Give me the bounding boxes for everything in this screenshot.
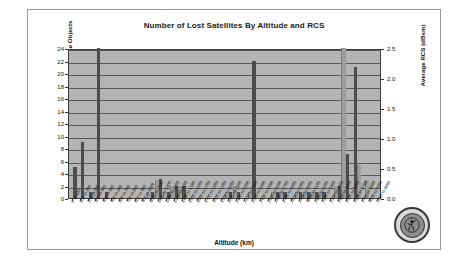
- x-axis-label-cell: 500 to 600: [107, 200, 115, 242]
- bar-group: [85, 50, 93, 198]
- x-axis-label-cell: 2400 to 2500: [256, 200, 264, 242]
- x-axis-label-cell: 600 to 700: [115, 200, 123, 242]
- x-axis-label-cell: 1300 to 1400: [170, 200, 178, 242]
- y-axis-right-tick-mark: [381, 109, 384, 110]
- y-axis-left-tick-label: 12: [57, 121, 64, 127]
- x-axis-label-cell: 2000 to 2100: [225, 200, 233, 242]
- x-axis-label-cell: 3300 to 3400: [326, 200, 334, 242]
- bar-group: [365, 50, 373, 198]
- bar-group: [209, 50, 217, 198]
- x-axis-label-cell: 2200 to 2300: [240, 200, 248, 242]
- y-axis-left-tick-label: 22: [57, 59, 64, 65]
- y-axis-right-tick-mark: [381, 139, 384, 140]
- y-axis-right-tick-label: 2.5: [387, 46, 395, 52]
- x-axis-label-cell: 1100 to 1200: [154, 200, 162, 242]
- x-axis-label-cell: 2300 to 2400: [248, 200, 256, 242]
- bar-group: [116, 50, 124, 198]
- bar-group: [77, 50, 85, 198]
- bar-group: [178, 50, 186, 198]
- x-axis-label-cell: 2600 to 2700: [272, 200, 280, 242]
- bar-group: [225, 50, 233, 198]
- y-axis-left-tick-label: 6: [61, 159, 64, 165]
- y-axis-left-tick-label: 16: [57, 96, 64, 102]
- x-axis-label-cell: 3400 to 3500: [334, 200, 342, 242]
- x-axis-label-cell: 900 to 1000: [138, 200, 146, 242]
- bar-group: [318, 50, 326, 198]
- bar-group: [256, 50, 264, 198]
- bar-group: [131, 50, 139, 198]
- y-axis-left-tick-label: 2: [61, 184, 64, 190]
- bar-group: [310, 50, 318, 198]
- bar-group: [100, 50, 108, 198]
- bar-group: [139, 50, 147, 198]
- bar-group: [201, 50, 209, 198]
- bar-group: [123, 50, 131, 198]
- bar-group: [279, 50, 287, 198]
- bar-group: [271, 50, 279, 198]
- bar-group: [295, 50, 303, 198]
- x-axis-label-cell: 3800 to 3900: [365, 200, 373, 242]
- y-axis-right-title: Average RCS (dBsm): [419, 0, 426, 128]
- x-axis-label-cell: 700 to 800: [123, 200, 131, 242]
- x-axis-label-cell: 1600 to 1700: [193, 200, 201, 242]
- y-axis-left-tick-label: 18: [57, 84, 64, 90]
- x-axis-label-cell: 800 to 900: [131, 200, 139, 242]
- y-axis-right: 2.52.01.51.00.50.0: [381, 49, 421, 199]
- x-axis-label-cell: 1200 to 1300: [162, 200, 170, 242]
- y-axis-right-tick-mark: [381, 169, 384, 170]
- y-axis-right-tick-label: 1.0: [387, 136, 395, 142]
- x-axis-title: Altitude (km): [28, 239, 440, 246]
- x-axis-label-cell: 1700 to 1800: [201, 200, 209, 242]
- x-axis-label-cell: 1800 to 1900: [209, 200, 217, 242]
- bar-group: [108, 50, 116, 198]
- x-axis-label-cell: 3700 to 3800: [358, 200, 366, 242]
- y-axis-left: 242220181614121086420: [28, 49, 68, 199]
- x-axis-label-cell: 1000 to 1100: [146, 200, 154, 242]
- x-axis-label-cell: 3900 to 4000: [373, 200, 381, 242]
- chart-title: Number of Lost Satellites By Altitude an…: [28, 21, 440, 30]
- y-axis-left-tick-label: 4: [61, 171, 64, 177]
- y-axis-right-tick-label: 1.5: [387, 106, 395, 112]
- y-axis-right-tick-label: 0.0: [387, 196, 395, 202]
- bar-group: [264, 50, 272, 198]
- x-axis-label-cell: 3200 to 3300: [319, 200, 327, 242]
- x-axis-label-cell: 1400 to 1500: [178, 200, 186, 242]
- x-axis-label-cell: 0 to 100: [68, 200, 76, 242]
- bar-group: [232, 50, 240, 198]
- bar-group: [341, 50, 349, 198]
- x-axis-label-cell: 300 to 400: [91, 200, 99, 242]
- y-axis-left-tick-label: 14: [57, 109, 64, 115]
- bar-series-container: [69, 50, 380, 198]
- bar-group: [248, 50, 256, 198]
- x-axis-label-cell: 2700 to 2800: [279, 200, 287, 242]
- bar-group: [147, 50, 155, 198]
- bar-group: [92, 50, 100, 198]
- chart-frame: Number of Lost Satellites By Altitude an…: [27, 9, 441, 250]
- bar-group: [162, 50, 170, 198]
- bar-group: [186, 50, 194, 198]
- bar-group: [170, 50, 178, 198]
- bar-group: [357, 50, 365, 198]
- y-axis-left-tick-label: 20: [57, 71, 64, 77]
- bar-group: [240, 50, 248, 198]
- y-axis-left-tick-label: 10: [57, 134, 64, 140]
- x-axis-label-cell: 3500 to 3600: [342, 200, 350, 242]
- agency-seal-logo: [394, 207, 430, 243]
- x-axis-label-cell: 2500 to 2600: [264, 200, 272, 242]
- y-axis-left-tick-label: 24: [57, 46, 64, 52]
- y-axis-right-tick-mark: [381, 79, 384, 80]
- x-axis-label-cell: 1500 to 1600: [185, 200, 193, 242]
- bar-group: [302, 50, 310, 198]
- x-axis-label-cell: 100 to 200: [76, 200, 84, 242]
- agency-seal-inner: [400, 213, 425, 238]
- y-axis-left-tick-label: 0: [61, 196, 64, 202]
- plot-area: [68, 49, 381, 199]
- y-axis-right-tick-label: 0.5: [387, 166, 395, 172]
- x-axis-label-cell: 200 to 300: [84, 200, 92, 242]
- bar-group: [326, 50, 334, 198]
- screenshot-page: Number of Lost Satellites By Altitude an…: [0, 0, 468, 259]
- x-axis-label-cell: 3100 to 3200: [311, 200, 319, 242]
- x-axis-label-cell: 2100 to 2200: [232, 200, 240, 242]
- bar-group: [69, 50, 77, 198]
- y-axis-left-tick-label: 8: [61, 146, 64, 152]
